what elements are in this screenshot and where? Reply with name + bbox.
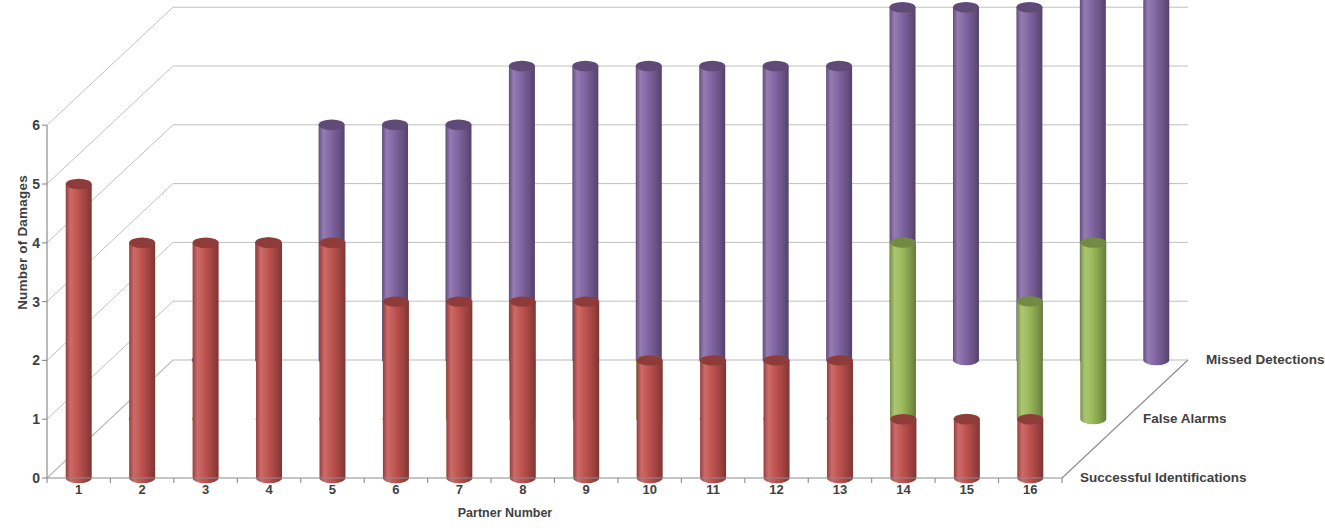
- x-tick-label: 15: [947, 482, 987, 497]
- cylinder-cap: [1017, 296, 1043, 306]
- cylinder-body: [700, 360, 726, 483]
- cylinder-cap: [636, 61, 662, 71]
- cylinder-cap: [382, 120, 408, 130]
- x-tick-label: 16: [1010, 482, 1050, 497]
- cylinder-cap: [510, 296, 536, 306]
- bar-missed-detections-10: [763, 61, 789, 365]
- cylinder-body: [383, 302, 409, 484]
- x-tick-label: 14: [883, 482, 923, 497]
- y-tick-label: 2: [10, 352, 40, 368]
- cylinder-cap: [890, 237, 916, 247]
- x-tick-label: 13: [820, 482, 860, 497]
- x-tick-label: 3: [186, 482, 226, 497]
- bar-successful-identifications-16: [1017, 414, 1043, 483]
- cylinder-body: [319, 243, 345, 483]
- x-tick-label: 7: [439, 482, 479, 497]
- cylinder-cap: [763, 61, 789, 71]
- y-tick-label: 3: [10, 294, 40, 310]
- bar-successful-identifications-15: [954, 414, 980, 483]
- cylinder-body: [1017, 301, 1043, 424]
- cylinder-cap: [66, 179, 92, 189]
- bar-successful-identifications-4: [256, 238, 282, 484]
- x-tick-label: 11: [693, 482, 733, 497]
- cylinder-cap: [637, 355, 663, 365]
- bar-successful-identifications-8: [510, 296, 536, 483]
- cylinder-cap: [700, 355, 726, 365]
- x-tick-label: 12: [757, 482, 797, 497]
- x-tick-label: 8: [503, 482, 543, 497]
- cylinder-cap: [954, 414, 980, 424]
- bar-successful-identifications-14: [890, 414, 916, 483]
- cylinder-cap: [1080, 237, 1106, 247]
- x-axis-title: Partner Number: [0, 506, 1010, 520]
- bar-successful-identifications-2: [129, 238, 155, 484]
- cylinder-cap: [445, 120, 471, 130]
- cylinder-cap: [256, 238, 282, 248]
- axis-lines: [42, 125, 47, 478]
- bar-missed-detections-11: [826, 61, 852, 365]
- cylinder-cap: [446, 296, 472, 306]
- cylinder-cap: [193, 238, 219, 248]
- bar-missed-detections-8: [636, 61, 662, 365]
- x-tick-label: 10: [630, 482, 670, 497]
- cylinder-cap: [890, 2, 916, 12]
- cylinder-body: [954, 419, 980, 483]
- y-tick-label: 0: [10, 470, 40, 486]
- bar-successful-identifications-3: [193, 238, 219, 484]
- cylinder-cap: [319, 238, 345, 248]
- cylinder-body: [890, 243, 916, 425]
- cylinder-cap: [509, 61, 535, 71]
- y-tick-label: 1: [10, 411, 40, 427]
- cylinder-cap: [383, 296, 409, 306]
- x-tick-label: 4: [249, 482, 289, 497]
- cylinder-body: [256, 243, 282, 483]
- cylinder-body: [193, 243, 219, 483]
- legend-label-false-alarms: False Alarms: [1143, 411, 1227, 426]
- bar-false-alarms-16: [1080, 237, 1106, 424]
- cylinder-body: [129, 243, 155, 483]
- y-tick-label: 4: [10, 235, 40, 251]
- cylinder-cap: [129, 238, 155, 248]
- bar-series: [66, 0, 1170, 483]
- cylinder-body: [637, 360, 663, 483]
- x-tick-label: 2: [122, 482, 162, 497]
- cylinder-body: [826, 66, 852, 365]
- bar-successful-identifications-1: [66, 179, 92, 483]
- cylinder-body: [446, 302, 472, 484]
- cylinder-cap: [890, 414, 916, 424]
- cylinder-cap: [699, 61, 725, 71]
- x-tick-label: 5: [312, 482, 352, 497]
- bar-successful-identifications-5: [319, 238, 345, 484]
- cylinder-body: [573, 302, 599, 484]
- cylinder-body: [636, 66, 662, 365]
- cylinder-body: [1080, 243, 1106, 425]
- bar-false-alarms-13: [890, 237, 916, 424]
- bar-successful-identifications-7: [446, 296, 472, 483]
- cylinder-body: [1143, 0, 1169, 365]
- cylinder-body: [763, 66, 789, 365]
- cylinder-cap: [764, 355, 790, 365]
- cylinder-cap: [953, 2, 979, 12]
- cylinder-cap: [573, 296, 599, 306]
- bar-successful-identifications-10: [637, 355, 663, 483]
- bar-successful-identifications-11: [700, 355, 726, 483]
- y-tick-label: 5: [10, 176, 40, 192]
- bar-missed-detections-9: [699, 61, 725, 365]
- bar-missed-detections-16: [1143, 0, 1169, 365]
- cylinder-cap: [1016, 2, 1042, 12]
- x-tick-label: 1: [59, 482, 99, 497]
- cylinder-body: [1017, 419, 1043, 483]
- bar-false-alarms-15: [1017, 296, 1043, 424]
- bar-successful-identifications-6: [383, 296, 409, 483]
- cylinder-body: [953, 7, 979, 365]
- bar-successful-identifications-12: [764, 355, 790, 483]
- cylinder-cap: [319, 120, 345, 130]
- legend-label-successful-identifications: Successful Identifications: [1080, 470, 1247, 485]
- cylinder-body: [510, 302, 536, 484]
- x-tick-label: 9: [566, 482, 606, 497]
- cylinder-body: [66, 184, 92, 483]
- cylinder-body: [699, 66, 725, 365]
- legend-label-missed-detections: Missed Detections: [1206, 352, 1325, 367]
